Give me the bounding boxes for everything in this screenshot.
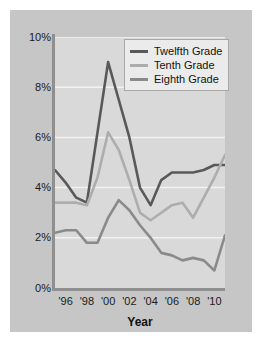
legend-item: Twelfth Grade: [130, 44, 222, 58]
y-axis-tick-label: 10%: [11, 32, 51, 43]
line-series: [55, 132, 225, 220]
chart-figure: 0%2%4%6%8%10% '96'98'00'02'04'06'08'10 Y…: [0, 0, 262, 347]
legend-swatch-icon: [130, 78, 148, 81]
x-axis-tick-label: '00: [101, 295, 115, 307]
y-axis-tick-label: 4%: [11, 182, 51, 193]
x-axis-tick-label: '02: [122, 295, 136, 307]
legend-item: Tenth Grade: [130, 58, 222, 72]
y-axis-tick-label: 8%: [11, 82, 51, 93]
legend-item-label: Twelfth Grade: [154, 45, 222, 57]
x-axis-tick-label: '08: [186, 295, 200, 307]
x-axis-tick-label: '10: [207, 295, 221, 307]
legend-swatch-icon: [130, 50, 148, 53]
legend-item: Eighth Grade: [130, 72, 222, 86]
legend-item-label: Tenth Grade: [154, 59, 215, 71]
y-axis-tick-label: 6%: [11, 132, 51, 143]
legend-swatch-icon: [130, 64, 148, 67]
x-axis-tick-label: '04: [143, 295, 157, 307]
x-axis-title: Year: [55, 315, 225, 329]
x-axis-tick-label: '98: [80, 295, 94, 307]
x-axis-line: [52, 288, 225, 291]
y-axis-tick-label: 2%: [11, 232, 51, 243]
y-axis-tick-label: 0%: [11, 283, 51, 294]
chart-legend: Twelfth Grade Tenth Grade Eighth Grade: [124, 39, 229, 91]
x-axis-tick-label: '06: [165, 295, 179, 307]
x-axis-tick-label: '96: [58, 295, 72, 307]
y-axis-tick-labels: 0%2%4%6%8%10%: [10, 37, 51, 288]
chart-panel: 0%2%4%6%8%10% '96'98'00'02'04'06'08'10 Y…: [10, 10, 252, 332]
legend-item-label: Eighth Grade: [154, 73, 219, 85]
x-axis-tick-labels: '96'98'00'02'04'06'08'10: [55, 295, 225, 311]
